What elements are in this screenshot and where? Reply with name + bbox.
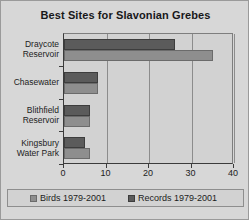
bar-birds (64, 148, 90, 159)
bar-group (64, 67, 232, 100)
bar-records (64, 105, 90, 116)
chart-legend: Birds 1979-2001Records 1979-2001 (7, 189, 244, 207)
chart-container: Best Sites for Slavonian Grebes Draycote… (0, 0, 249, 220)
bar-birds (64, 50, 213, 61)
category-label: KingsburyWater Park (1, 138, 59, 158)
bar-records (64, 137, 85, 148)
legend-label: Birds 1979-2001 (40, 193, 106, 203)
legend-label: Records 1979-2001 (138, 193, 217, 203)
chart-title: Best Sites for Slavonian Grebes (1, 9, 249, 21)
category-label-line: Reservoir (1, 49, 59, 59)
x-axis-tick-label: 0 (51, 168, 75, 178)
bar-records (64, 72, 98, 83)
x-axis-tick-label: 30 (179, 168, 203, 178)
gridline-40 (234, 34, 235, 163)
category-label: DraycoteReservoir (1, 39, 59, 59)
category-label-line: Chasewater (1, 77, 59, 87)
category-label: BlithfieldReservoir (1, 105, 59, 125)
category-label-line: Water Park (1, 148, 59, 158)
legend-swatch-icon (30, 195, 37, 202)
category-label: Chasewater (1, 77, 59, 87)
legend-entry[interactable]: Birds 1979-2001 (30, 193, 106, 203)
bar-records (64, 39, 175, 50)
bar-birds (64, 116, 90, 127)
plot-area (63, 33, 233, 164)
legend-swatch-icon (128, 195, 135, 202)
x-axis-tick-label: 40 (221, 168, 245, 178)
bar-birds (64, 83, 98, 94)
legend-entry[interactable]: Records 1979-2001 (128, 193, 217, 203)
x-axis-tick-label: 10 (94, 168, 118, 178)
category-label-line: Blithfield (1, 105, 59, 115)
category-label-line: Reservoir (1, 115, 59, 125)
category-label-line: Kingsbury (1, 138, 59, 148)
bar-group (64, 100, 232, 133)
bar-group (64, 132, 232, 165)
bar-group (64, 34, 232, 67)
category-label-line: Draycote (1, 39, 59, 49)
x-axis-tick-label: 20 (136, 168, 160, 178)
